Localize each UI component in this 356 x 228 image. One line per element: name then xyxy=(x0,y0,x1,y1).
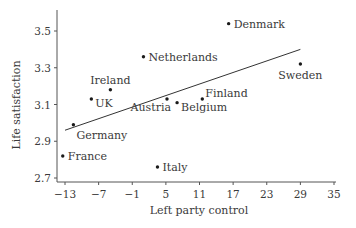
y-tick-label: 2.7 xyxy=(34,172,51,184)
y-tick-label: 3.3 xyxy=(34,62,51,74)
point-marker xyxy=(175,101,178,104)
chart-canvas: 2.72.93.13.33.5−13−7−151117232935 Denmar… xyxy=(0,0,356,228)
data-point-germany: Germany xyxy=(72,123,128,142)
data-point-sweden: Sweden xyxy=(278,62,322,82)
data-point-uk: UK xyxy=(90,97,114,110)
point-label: Italy xyxy=(162,161,188,174)
point-marker xyxy=(142,55,145,58)
point-label: Ireland xyxy=(90,74,130,87)
point-label: Austria xyxy=(130,101,172,114)
scatter-chart: 2.72.93.13.33.5−13−7−151117232935 Denmar… xyxy=(0,0,356,228)
data-point-belgium: Belgium xyxy=(175,101,227,114)
point-label: UK xyxy=(95,97,113,110)
point-marker xyxy=(227,22,230,25)
x-tick-label: −13 xyxy=(54,188,76,200)
x-tick-label: 5 xyxy=(163,188,170,200)
point-marker xyxy=(61,154,64,157)
point-marker xyxy=(72,123,75,126)
point-label: Belgium xyxy=(181,101,228,114)
point-marker xyxy=(299,62,302,65)
point-label: Denmark xyxy=(234,18,286,31)
data-point-finland: Finland xyxy=(201,87,248,101)
point-marker xyxy=(156,165,159,168)
data-points: DenmarkNetherlandsSwedenIrelandUKFinland… xyxy=(61,18,322,174)
point-marker xyxy=(109,88,112,91)
point-marker xyxy=(90,97,93,100)
data-point-italy: Italy xyxy=(156,161,189,174)
y-axis-title: Life satisfaction xyxy=(10,60,23,149)
point-label: France xyxy=(68,150,107,163)
x-tick-label: −1 xyxy=(125,188,140,200)
x-axis-title: Left party control xyxy=(150,204,249,217)
y-tick-label: 3.1 xyxy=(34,99,51,111)
point-label: Netherlands xyxy=(148,51,218,64)
x-tick-label: 35 xyxy=(327,188,340,200)
x-tick-label: 17 xyxy=(226,188,239,200)
point-label: Finland xyxy=(205,87,247,100)
x-tick-label: 29 xyxy=(294,188,307,200)
x-tick-label: −7 xyxy=(91,188,106,200)
point-label: Germany xyxy=(76,129,128,142)
x-tick-label: 23 xyxy=(260,188,273,200)
data-point-austria: Austria xyxy=(130,97,172,114)
y-tick-label: 2.9 xyxy=(34,135,51,147)
data-point-netherlands: Netherlands xyxy=(142,51,218,64)
data-point-france: France xyxy=(61,150,107,163)
data-point-ireland: Ireland xyxy=(90,74,130,92)
x-tick-label: 11 xyxy=(193,188,206,200)
y-tick-label: 3.5 xyxy=(34,25,51,37)
data-point-denmark: Denmark xyxy=(227,18,285,31)
point-label: Sweden xyxy=(278,69,322,82)
